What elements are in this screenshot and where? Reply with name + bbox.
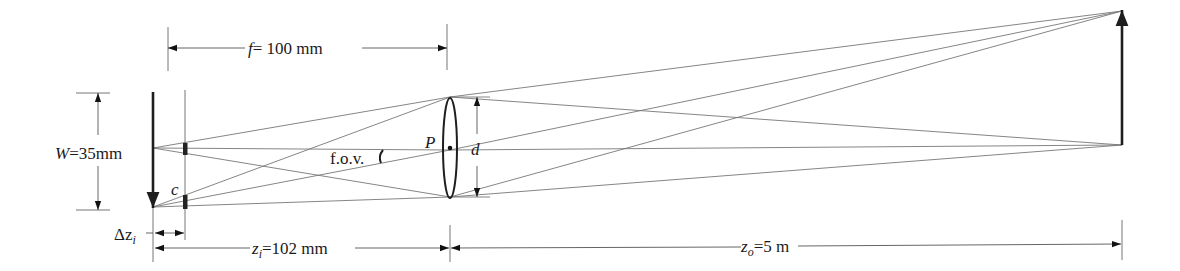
- svg-text:zi=102 mm: zi=102 mm: [251, 239, 328, 261]
- svg-text:Δzi: Δzi: [114, 225, 136, 247]
- aperture-label: d: [471, 140, 480, 159]
- principal-point-dot: [448, 146, 453, 151]
- blur-spot-top: [183, 143, 188, 155]
- delta-zi-symbol: Δz: [114, 225, 133, 244]
- delta-image-distance-dimension: [146, 208, 184, 262]
- svg-text:W=35mm: W=35mm: [55, 144, 122, 163]
- circle-of-confusion-label: c: [171, 180, 179, 199]
- svg-text:f= 100 mm: f= 100 mm: [248, 39, 323, 58]
- zi-value: =102 mm: [262, 239, 328, 258]
- field-of-view-arc-icon: [380, 150, 383, 163]
- sensor-width-value: =35mm: [69, 144, 122, 163]
- delta-zi-subscript: i: [132, 233, 135, 247]
- optics-diagram: f= 100 mm W=35mm c P d f.o.v. Δzi zi=102…: [0, 0, 1180, 271]
- field-of-view-label: f.o.v.: [330, 149, 364, 168]
- svg-text:zo=5 m: zo=5 m: [740, 237, 789, 259]
- zo-value: =5 m: [754, 237, 790, 256]
- principal-point-label: P: [424, 133, 435, 152]
- blur-spot-bottom: [183, 195, 188, 209]
- focal-length-value: = 100 mm: [253, 39, 323, 58]
